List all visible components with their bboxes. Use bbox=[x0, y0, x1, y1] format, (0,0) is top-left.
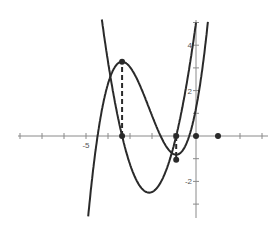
x-tick-label: -5 bbox=[82, 141, 90, 150]
point-marker bbox=[173, 157, 179, 163]
x-axis bbox=[18, 133, 268, 139]
y-tick-label: -2 bbox=[185, 177, 193, 186]
point-marker bbox=[119, 133, 125, 139]
point-marker bbox=[119, 59, 125, 65]
point-marker bbox=[215, 133, 221, 139]
y-tick-label: 2 bbox=[188, 87, 193, 96]
point-marker bbox=[173, 133, 179, 139]
point-marker bbox=[193, 133, 199, 139]
tick-labels: -542-2 bbox=[82, 41, 192, 186]
chart-canvas: -542-2 bbox=[0, 0, 280, 234]
